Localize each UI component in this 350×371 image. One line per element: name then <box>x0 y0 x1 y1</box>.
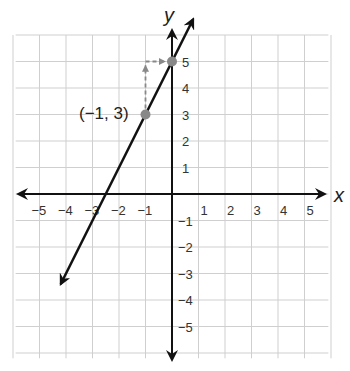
svg-text:1: 1 <box>182 161 189 176</box>
svg-text:−4: −4 <box>58 203 73 218</box>
svg-text:1: 1 <box>201 203 208 218</box>
svg-text:−3: −3 <box>178 267 193 282</box>
svg-text:−2: −2 <box>111 203 126 218</box>
point-label: (−1, 3) <box>79 104 129 123</box>
svg-text:3: 3 <box>254 203 261 218</box>
svg-text:5: 5 <box>182 55 189 70</box>
svg-text:2: 2 <box>227 203 234 218</box>
svg-text:−5: −5 <box>178 320 193 335</box>
svg-text:−5: −5 <box>32 203 47 218</box>
point-neg1-3 <box>141 110 151 120</box>
svg-text:2: 2 <box>182 134 189 149</box>
svg-text:5: 5 <box>307 203 314 218</box>
svg-text:4: 4 <box>182 81 189 96</box>
svg-text:−4: −4 <box>178 293 193 308</box>
y-axis-label: y <box>162 4 175 26</box>
point-0-5 <box>167 57 177 67</box>
coordinate-plane: −5−4−3−2−11234554321−1−2−3−4−5 x y (−1, … <box>0 0 350 371</box>
svg-text:4: 4 <box>280 203 287 218</box>
x-axis-label: x <box>333 184 345 206</box>
svg-text:−2: −2 <box>178 240 193 255</box>
svg-text:−1: −1 <box>138 203 153 218</box>
svg-text:3: 3 <box>182 108 189 123</box>
svg-text:−1: −1 <box>178 214 193 229</box>
